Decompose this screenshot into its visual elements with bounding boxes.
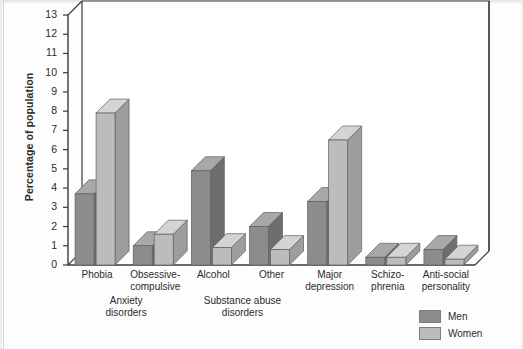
legend-item-men: Men	[419, 309, 482, 324]
chart-page: Percentage of population 012345678910111…	[0, 0, 523, 349]
legend-label-men: Men	[448, 311, 467, 322]
bar-women	[329, 126, 362, 265]
legend-item-women: Women	[419, 326, 482, 341]
bar-women	[96, 99, 129, 265]
legend-label-women: Women	[448, 328, 482, 339]
legend-swatch-men	[419, 310, 441, 323]
chart-legend: Men Women	[419, 309, 482, 343]
x-group-label: Substance abuse disorders	[182, 295, 302, 318]
x-category-label: Anti-social personality	[408, 269, 484, 292]
legend-swatch-women	[419, 327, 441, 340]
x-group-label: Anxiety disorders	[66, 295, 186, 318]
